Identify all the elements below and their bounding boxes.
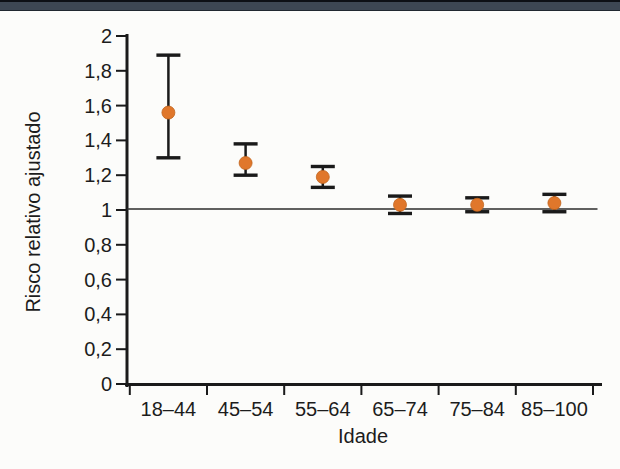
error-bar-cap-top [311,165,335,168]
chart-generated-layer: 00,20,40,60,811,21,41,61,8218–4445–5455–… [84,25,602,420]
data-point [394,198,407,211]
y-tick [116,105,126,107]
x-tick [129,384,131,395]
x-tick [515,384,517,395]
x-tick [592,384,594,395]
x-tick [206,384,208,395]
y-tick-label: 1,8 [84,60,112,82]
data-point [239,157,252,170]
data-point [162,106,175,119]
error-bar-cap-top [234,142,258,145]
y-tick-label: 1,2 [84,164,112,186]
x-category-label: 55–64 [295,398,351,420]
error-bar-cap-bottom [542,210,566,213]
y-tick-label: 0 [101,373,112,395]
error-bar-cap-top [388,194,412,197]
y-tick-label: 0,2 [84,338,112,360]
y-tick-label: 1,6 [84,95,112,117]
y-tick [116,244,126,246]
y-tick [116,279,126,281]
y-axis-title: Risco relativo ajustado [22,111,44,312]
y-tick [116,139,126,141]
x-tick [438,384,440,395]
y-tick [116,70,126,72]
x-tick [283,384,285,395]
x-axis-line [125,383,602,386]
x-category-label: 65–74 [372,398,428,420]
y-tick [116,348,126,350]
y-tick [116,174,126,176]
y-tick-label: 0,8 [84,234,112,256]
y-tick [116,35,126,37]
error-bar-cap-top [542,193,566,196]
reference-line [128,208,598,210]
y-tick-label: 0,6 [84,269,112,291]
data-point [316,170,329,183]
relative-risk-chart: 00,20,40,60,811,21,41,61,8218–4445–5455–… [0,0,620,469]
x-category-label: 75–84 [449,398,505,420]
error-bar-cap-bottom [388,212,412,215]
y-tick [116,313,126,315]
error-bar-cap-bottom [234,174,258,177]
y-tick-label: 0,4 [84,303,112,325]
data-point [548,197,561,210]
x-axis-title: Idade [338,425,388,447]
error-bar-cap-bottom [156,156,180,159]
x-category-label: 45–54 [218,398,274,420]
y-tick [116,383,126,385]
y-tick-label: 1 [101,199,112,221]
data-point [471,198,484,211]
x-category-label: 85–100 [521,398,588,420]
error-bar-cap-top [156,53,180,56]
y-tick-label: 1,4 [84,129,112,151]
y-tick [116,209,126,211]
error-bar-cap-bottom [311,186,335,189]
x-tick [360,384,362,395]
y-tick-label: 2 [101,25,112,47]
x-category-label: 18–44 [141,398,197,420]
